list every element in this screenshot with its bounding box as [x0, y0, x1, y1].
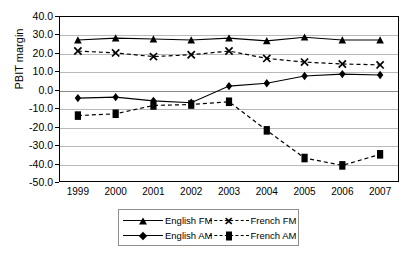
- y-tick-mark: [55, 182, 59, 183]
- legend-entry-english-fm: English FM: [123, 214, 209, 227]
- series-layer: [59, 16, 399, 182]
- x-tick-label: 2007: [369, 186, 391, 197]
- y-axis-title: PBIT margin: [13, 0, 31, 119]
- legend-label: French FM: [249, 215, 297, 226]
- legend-row: English FM ✕ French FM: [123, 213, 294, 228]
- x-tick-label: 2003: [218, 186, 240, 197]
- english-am-key-icon: [123, 229, 163, 242]
- x-tick-label: 2005: [293, 186, 315, 197]
- french-fm-key-icon: ✕: [209, 214, 249, 227]
- x-tick-label: 2004: [256, 186, 278, 197]
- legend-entry-french-fm: ✕ French FM: [209, 214, 295, 227]
- series-french-fm: [74, 47, 383, 68]
- legend-entry-french-am: French AM: [209, 229, 295, 242]
- y-tick-label: -40.0: [0, 158, 53, 170]
- x-tick-label: 2006: [331, 186, 353, 197]
- english-fm-key-icon: [123, 214, 163, 227]
- x-tick-label: 2000: [105, 186, 127, 197]
- y-tick-label: -30.0: [0, 139, 53, 151]
- legend-row: English AM French AM: [123, 228, 294, 243]
- x-tick-label: 1999: [67, 186, 89, 197]
- legend-label: English FM: [163, 215, 213, 226]
- x-tick-label: 2001: [142, 186, 164, 197]
- x-tick-label: 2002: [180, 186, 202, 197]
- french-am-key-icon: [209, 229, 249, 242]
- y-tick-label: -20.0: [0, 121, 53, 133]
- series-english-fm: [74, 33, 384, 44]
- chart-legend: English FM ✕ French FM English AM Fren: [118, 209, 299, 246]
- series-french-am: [75, 97, 383, 169]
- y-tick-label: -50.0: [0, 176, 53, 188]
- legend-entry-english-am: English AM: [123, 229, 209, 242]
- legend-label: French AM: [249, 230, 297, 241]
- pbit-margin-chart: PBIT margin 40.030.020.010.00.0-10.0-20.…: [0, 0, 413, 258]
- legend-label: English AM: [163, 230, 213, 241]
